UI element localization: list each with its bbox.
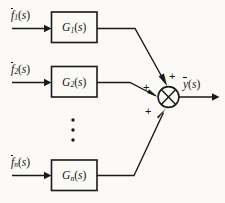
block-label-G1: G1(s) — [52, 22, 98, 34]
summing-junction — [158, 87, 179, 108]
diagram-canvas — [0, 0, 225, 203]
output-wire-y — [179, 93, 220, 100]
output-wire-n — [97, 108, 166, 176]
sum-sign-middle: + — [143, 82, 149, 93]
sum-sign-bottom: + — [145, 106, 151, 117]
input-label-f1: f1(s) — [11, 9, 30, 21]
block-label-Gn: Gn(s) — [52, 170, 98, 182]
input-wire-2 — [12, 79, 52, 86]
sum-sign-top: + — [169, 71, 175, 82]
input-wire-1 — [12, 25, 52, 32]
output-wire-1 — [97, 29, 167, 87]
vertical-ellipsis — [71, 118, 74, 141]
block-diagram-figure: f1(s) f2(s) fn(s) G1(s) G2(s) Gn(s) + + … — [0, 0, 225, 203]
input-label-fn: fn(s) — [11, 156, 30, 168]
block-label-G2: G2(s) — [52, 77, 98, 89]
input-wire-n — [12, 172, 52, 179]
input-label-f2: f2(s) — [11, 63, 30, 75]
output-label-y: y(s) — [183, 78, 200, 90]
